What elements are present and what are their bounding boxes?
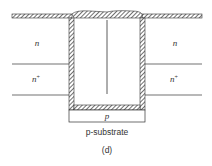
label-nplus-right: n+: [170, 74, 179, 84]
label-substrate: p-substrate: [86, 127, 129, 137]
figure-caption: (d): [102, 145, 113, 155]
label-p-region: p: [104, 111, 110, 121]
label-n-left: n: [35, 38, 40, 48]
trench-cross-section-diagram: n n n+ n+ p p-substrate (d): [0, 0, 212, 166]
top-oxide-layer: [12, 11, 202, 18]
label-nplus-left: n+: [32, 74, 41, 84]
label-n-right: n: [173, 38, 178, 48]
